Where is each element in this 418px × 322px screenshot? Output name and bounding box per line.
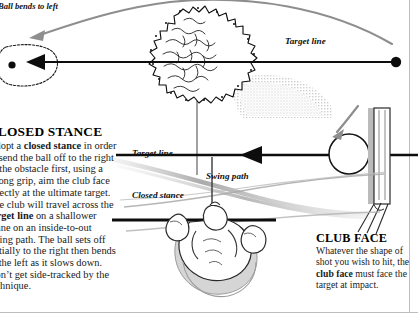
arrowhead-left-top — [26, 54, 45, 70]
label-closed-stance: Closed stance — [132, 190, 184, 200]
golf-diagram-page: Ball bends to left Target line Target li… — [0, 0, 418, 322]
label-target-line-mid: Target line — [132, 148, 173, 158]
arrowhead-left-mid — [240, 146, 262, 164]
putting-green — [0, 45, 58, 86]
hole-marker — [8, 61, 15, 68]
golf-ball-top — [391, 57, 401, 67]
label-swing-path: Swing path — [206, 171, 249, 181]
golf-ball-main — [329, 134, 369, 174]
label-ball-bends-to-left: Ball bends to left — [0, 1, 58, 11]
closed-stance-heading: CLOSED STANCE — [0, 124, 118, 139]
label-target-line-top: Target line — [285, 36, 326, 46]
closed-stance-text-block: CLOSED STANCE Adopt a closed stance in o… — [0, 124, 118, 292]
club-face-heading: CLUB FACE — [316, 231, 412, 245]
club-face-body: Whatever the shape of shot you wish to h… — [316, 245, 409, 290]
closed-stance-body: Adopt a closed stance in order to send t… — [0, 140, 116, 291]
club-face-text-block: CLUB FACE Whatever the shape of shot you… — [316, 231, 412, 290]
